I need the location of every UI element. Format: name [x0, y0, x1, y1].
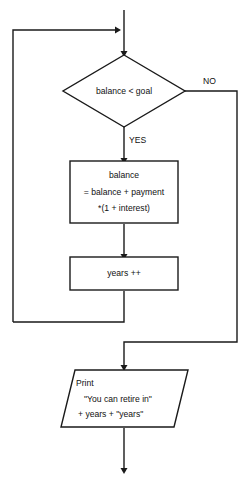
edge-years-to-loopback	[13, 291, 124, 322]
output-print-line1: Print	[76, 378, 94, 388]
process-balance-node[interactable]: balance = balance + payment *(1 + intere…	[70, 161, 178, 223]
flowchart-canvas: balance < goal balance = balance + payme…	[0, 0, 250, 482]
output-print-node[interactable]: Print "You can retire in" + years + "yea…	[61, 370, 188, 427]
output-print-line3: + years + "years"	[78, 409, 143, 419]
process-balance-line1: balance	[109, 170, 139, 180]
output-print-line2: "You can retire in"	[84, 394, 152, 404]
edge-no-to-print	[124, 91, 237, 367]
process-years-node[interactable]: years ++	[70, 257, 178, 290]
edge-label-yes: YES	[129, 135, 146, 145]
process-years-label: years ++	[107, 268, 140, 278]
process-balance-line3: *(1 + interest)	[98, 203, 150, 213]
decision-node[interactable]: balance < goal	[63, 55, 185, 127]
decision-label: balance < goal	[96, 86, 152, 96]
edge-label-no: NO	[203, 76, 216, 86]
process-balance-line2: = balance + payment	[84, 187, 165, 197]
